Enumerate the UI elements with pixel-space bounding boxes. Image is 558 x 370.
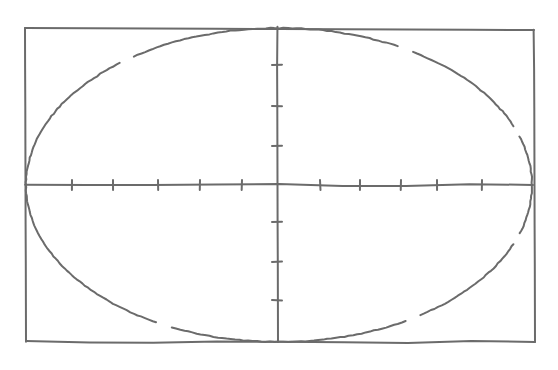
- y-axis-line: [277, 27, 278, 342]
- y-axis: [277, 27, 278, 342]
- frame-right-edge: [534, 30, 535, 342]
- x-axis-line: [25, 184, 533, 186]
- sketch-canvas: [0, 0, 558, 370]
- x-axis: [25, 184, 533, 186]
- ellipse-diagram: [0, 0, 558, 370]
